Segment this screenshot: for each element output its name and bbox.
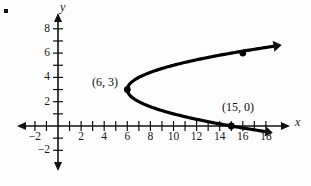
parabola-curve-group — [124, 41, 282, 137]
x-tick-label-18: 18 — [260, 131, 272, 143]
y-tick-label-8: 8 — [44, 23, 50, 35]
x-tick-label-4: 4 — [101, 131, 107, 143]
marked-point-2 — [239, 50, 246, 57]
x-tick-label-6: 6 — [124, 131, 130, 143]
marked-point-1 — [228, 123, 235, 130]
curve-upper-arrow-icon — [273, 41, 282, 52]
x-tick-label-10: 10 — [168, 131, 180, 143]
x-tick-label-14: 14 — [214, 131, 226, 143]
marked-point-0 — [124, 86, 131, 93]
y-tick-label-6: 6 — [44, 47, 50, 59]
x-axis-label: x — [295, 116, 300, 128]
x-tick-label-12: 12 — [191, 131, 203, 143]
x-axis-right-arrow-icon — [281, 122, 290, 130]
graph-figure: −2246810121416188642−2 x y (6, 3) (15, 0… — [0, 0, 311, 186]
y-tick-label-2: 2 — [44, 96, 50, 108]
x-tick-label-8: 8 — [148, 131, 154, 143]
vertex-point-label: (6, 3) — [92, 76, 118, 88]
y-axis-up-arrow-icon — [54, 13, 62, 22]
x-axis-left-arrow-icon — [17, 122, 26, 130]
y-tick-label--2: −2 — [38, 144, 50, 156]
y-tick-label-4: 4 — [44, 71, 50, 83]
parabola-curve — [127, 46, 273, 131]
y-axis-label: y — [60, 1, 65, 13]
x-tick-label--2: −2 — [29, 131, 41, 143]
x-intercept-point-label: (15, 0) — [222, 101, 254, 113]
x-tick-label-2: 2 — [78, 131, 84, 143]
y-axis — [53, 13, 63, 171]
y-axis-down-arrow-icon — [54, 162, 62, 171]
x-tick-label-16: 16 — [237, 131, 249, 143]
